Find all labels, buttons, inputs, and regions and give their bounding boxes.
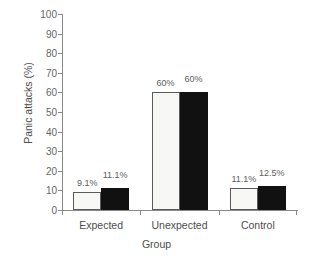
x-axis-tick [219,210,220,215]
x-axis-category-label: Expected [79,219,123,231]
bar-chart: 01020304050607080901009.1%11.1%60%60%11.… [0,0,313,263]
bar-value-label: 9.1% [77,178,98,188]
bar-value-label: 11.1% [231,174,256,184]
x-axis-tick [296,210,297,215]
y-axis-tick [58,92,62,93]
bar-value-label: 12.5% [259,168,285,178]
x-axis-title: Group [0,238,313,250]
y-axis-tick [58,34,62,35]
bar-control-light [230,188,258,210]
y-axis-tick-label: 80 [46,48,57,59]
bar-unexpected-light [152,92,180,210]
bar-unexpected-dark [180,92,208,210]
y-axis-tick [58,112,62,113]
bar-value-label: 60% [156,78,174,88]
bar-expected-dark [101,188,129,210]
y-axis-tick [58,14,62,15]
bar-control-dark [258,186,286,211]
y-axis-tick-label: 0 [51,205,57,216]
y-axis-tick [58,53,62,54]
x-axis-category-label: Control [241,219,275,231]
x-axis-tick [140,210,141,215]
bar-expected-light [73,192,101,210]
plot-area: 01020304050607080901009.1%11.1%60%60%11.… [62,14,297,210]
y-axis-tick-label: 100 [40,9,57,20]
y-axis-tick-label: 30 [46,146,57,157]
y-axis-tick [58,171,62,172]
y-axis-tick-label: 10 [46,185,57,196]
bar-value-label: 11.1% [103,170,128,180]
y-axis-tick [58,151,62,152]
y-axis-tick [58,73,62,74]
y-axis-tick-label: 60 [46,87,57,98]
y-axis-tick-label: 20 [46,165,57,176]
y-axis-tick-label: 40 [46,126,57,137]
y-axis-tick-label: 50 [46,107,57,118]
x-axis-tick [62,210,63,215]
y-axis-tick [58,190,62,191]
y-axis-tick-label: 70 [46,67,57,78]
x-axis-line [62,210,298,211]
bar-value-label: 60% [184,74,202,84]
y-axis-title: Panic attacks (%) [22,13,34,193]
y-axis-tick-label: 90 [46,28,57,39]
x-axis-category-label: Unexpected [151,219,207,231]
y-axis-tick [58,132,62,133]
